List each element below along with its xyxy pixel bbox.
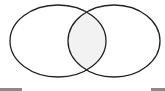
bottom-left-bar	[0, 88, 22, 91]
venn-svg	[0, 0, 165, 91]
bottom-right-bar	[151, 88, 165, 91]
venn-diagram	[0, 0, 165, 91]
